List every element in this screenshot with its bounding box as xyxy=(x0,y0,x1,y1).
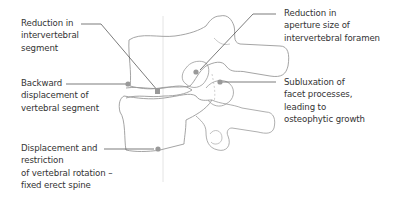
label-reduction-intervertebral-segment: Reduction in intervertebral segment xyxy=(21,17,79,54)
label-line: of vertebral rotation – xyxy=(21,167,112,179)
foramen-dashed-contour xyxy=(212,74,215,102)
label-line: segment xyxy=(21,42,79,54)
label-subluxation-facet: Subluxation of facet processes, leading … xyxy=(284,76,365,125)
label-line: Reduction in xyxy=(21,17,79,29)
marker-dots xyxy=(125,69,222,151)
label-line: osteophytic growth xyxy=(284,113,365,125)
label-line: Subluxation of xyxy=(284,76,365,88)
marker-dot-backward-displacement xyxy=(125,81,130,86)
leader-line-aperture-reduction xyxy=(200,14,276,70)
label-line: fixed erect spine xyxy=(21,179,112,191)
label-line: intervertebral foramen xyxy=(284,32,380,44)
label-line: Backward xyxy=(21,77,99,89)
marker-dot-foramen xyxy=(193,69,198,74)
label-line: intervertebral xyxy=(21,29,79,41)
label-line: Reduction in xyxy=(284,7,380,19)
marker-dot-facet xyxy=(217,79,222,84)
label-line: displacement of xyxy=(21,89,99,101)
label-backward-displacement: Backward displacement of vertebral segme… xyxy=(21,77,99,114)
label-line: Displacement and xyxy=(21,142,112,154)
label-displacement-restriction-rotation: Displacement and restriction of vertebra… xyxy=(21,142,112,191)
lower-spinous-process xyxy=(196,100,275,150)
label-line: leading to xyxy=(284,101,365,113)
label-line: facet processes, xyxy=(284,88,365,100)
marker-square-disc xyxy=(155,88,160,94)
lower-facet-circle xyxy=(210,131,222,145)
vertebral-segment-diagram: Reduction in intervertebral segment Back… xyxy=(0,0,401,205)
label-line: vertebral segment xyxy=(21,102,99,114)
lower-vertebral-body xyxy=(119,94,212,151)
upper-vertebral-body xyxy=(129,16,289,89)
label-reduction-aperture-foramen: Reduction in aperture size of interverte… xyxy=(284,7,380,44)
label-line: restriction xyxy=(21,154,112,166)
label-line: aperture size of xyxy=(284,19,380,31)
marker-dot-rotation xyxy=(155,146,160,151)
